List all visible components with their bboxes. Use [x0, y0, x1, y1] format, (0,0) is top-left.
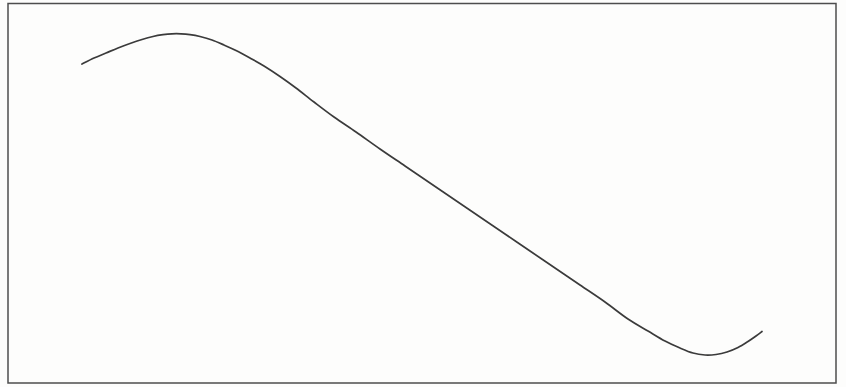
figure-background	[0, 0, 846, 387]
waveform-figure	[0, 0, 846, 387]
figure-canvas	[0, 0, 846, 387]
